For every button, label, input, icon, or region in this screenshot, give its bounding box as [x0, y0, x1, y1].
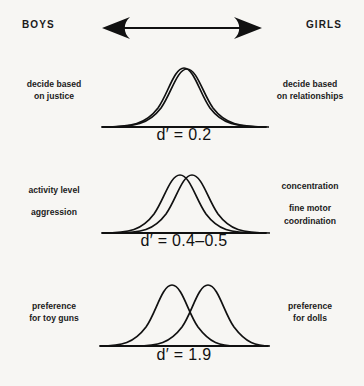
panel-activity-plot: d′ = 0.4–0.5	[96, 166, 272, 274]
label-line: decide basedon relationships	[256, 78, 364, 103]
gender-difference-figure: BOYS GIRLS decide basedon justice	[0, 0, 364, 386]
panel-toys: preferencefor toy guns d′ = 1.9 preferen…	[0, 274, 364, 386]
label-line: decide basedon justice	[0, 78, 108, 103]
panel-justice-right-labels: decide basedon relationships	[256, 78, 364, 103]
label-line: preferencefor toy guns	[0, 300, 108, 325]
panel-activity-left-labels: activity level aggression	[0, 184, 108, 219]
label-line: preferencefor dolls	[256, 300, 364, 325]
panel-toys-right-labels: preferencefor dolls	[256, 300, 364, 325]
header-label-boys: BOYS	[22, 19, 55, 30]
panel-toys-plot: d′ = 1.9	[96, 274, 272, 386]
header-label-girls: GIRLS	[306, 19, 342, 30]
label-line: aggression	[0, 206, 108, 218]
label-line: activity level	[0, 184, 108, 196]
panel-toys-left-labels: preferencefor toy guns	[0, 300, 108, 325]
label-line: concentration	[256, 180, 364, 192]
dprime-label-justice: d′ = 0.2	[96, 126, 272, 144]
panel-activity-right-labels: concentration fine motorcoordination	[256, 180, 364, 227]
label-line: fine motorcoordination	[256, 202, 364, 227]
panel-justice-plot: d′ = 0.2	[96, 56, 272, 166]
panel-justice-left-labels: decide basedon justice	[0, 78, 108, 103]
dprime-label-toys: d′ = 1.9	[96, 346, 272, 364]
figure-header: BOYS GIRLS	[0, 0, 364, 56]
panel-activity: activity level aggression d′ = 0.4–0.5 c…	[0, 166, 364, 274]
panel-justice: decide basedon justice d′ = 0.2 decide b…	[0, 56, 364, 166]
dprime-label-activity: d′ = 0.4–0.5	[96, 232, 272, 250]
double-headed-arrow-icon	[96, 8, 268, 48]
